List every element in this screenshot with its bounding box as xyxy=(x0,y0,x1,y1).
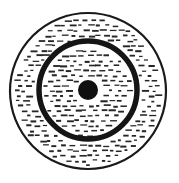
hatch-dash xyxy=(67,100,71,102)
hatch-dash xyxy=(125,141,131,143)
hatch-dash xyxy=(95,64,101,66)
hatch-dash xyxy=(137,124,143,125)
hatch-dash xyxy=(92,30,99,32)
hatch-dash xyxy=(149,115,156,116)
hatch-dash xyxy=(56,120,61,122)
hatch-dash xyxy=(89,105,94,107)
figure-root xyxy=(0,0,179,183)
hatch-dash xyxy=(48,40,54,42)
hatch-dash xyxy=(145,80,150,82)
hatch-dash xyxy=(66,90,73,92)
hatch-dash xyxy=(35,134,40,136)
hatch-dash xyxy=(148,75,152,77)
hatch-dash xyxy=(78,24,81,25)
hatch-dash xyxy=(52,45,55,46)
hatch-dash xyxy=(18,85,22,87)
hatch-dash xyxy=(151,120,155,122)
hatch-dash xyxy=(157,105,161,107)
hatch-dash xyxy=(100,100,107,102)
hatch-dash xyxy=(76,110,82,112)
hatch-dash xyxy=(62,35,69,36)
hatch-dash xyxy=(39,40,45,42)
hatch-dash xyxy=(48,30,53,31)
hatch-dash xyxy=(42,50,47,52)
hatch-dash xyxy=(91,19,96,21)
hatch-dash xyxy=(66,60,69,61)
hatch-dash xyxy=(22,119,28,120)
hatch-dash xyxy=(72,125,76,126)
hatch-dash xyxy=(26,124,31,126)
hatch-dash xyxy=(110,30,117,31)
hatch-dash xyxy=(114,64,120,66)
hatch-dash xyxy=(88,55,94,56)
hatch-dash xyxy=(87,154,92,156)
hatch-dash xyxy=(118,111,124,113)
hatch-dash xyxy=(123,45,130,47)
hatch-dash xyxy=(110,80,115,81)
hatch-dash xyxy=(73,61,76,63)
hatch-dash xyxy=(89,36,95,38)
hatch-dash xyxy=(135,120,140,122)
hatch-dash xyxy=(79,64,82,65)
hatch-dash xyxy=(152,70,158,71)
hatch-dash xyxy=(139,75,142,77)
hatch-dash xyxy=(69,145,75,146)
hatch-dash xyxy=(15,89,20,91)
hatch-dash xyxy=(17,74,23,76)
hatch-dash xyxy=(85,61,90,63)
hatch-dash xyxy=(95,145,101,147)
center-dot xyxy=(78,80,98,100)
hatch-dash xyxy=(56,80,60,82)
hatch-dash xyxy=(57,110,62,112)
hatch-dash xyxy=(151,110,156,111)
hatch-dash xyxy=(43,85,47,87)
hatch-dash xyxy=(93,159,97,160)
hatch-dash xyxy=(61,114,68,116)
hatch-dash xyxy=(53,156,57,158)
hatch-dash xyxy=(26,104,30,105)
hatch-dash xyxy=(142,90,149,92)
hatch-dash xyxy=(88,145,92,147)
hatch-dash xyxy=(127,49,132,51)
hatch-dash xyxy=(101,120,106,121)
hatch-dash xyxy=(109,109,116,111)
hatch-dash xyxy=(74,69,81,70)
hatch-dash xyxy=(62,55,69,57)
hatch-dash xyxy=(50,101,53,102)
hatch-dash xyxy=(103,95,109,97)
hatch-dash xyxy=(67,120,74,122)
hatch-dash xyxy=(140,136,145,138)
hatch-dash xyxy=(16,100,19,101)
hatch-dash xyxy=(102,109,108,111)
hatch-dash xyxy=(147,106,151,108)
hatch-dash xyxy=(43,144,49,145)
hatch-dash xyxy=(80,155,87,157)
hatch-dash xyxy=(70,24,77,26)
hatch-dash xyxy=(138,45,144,46)
hatch-dash xyxy=(139,56,142,57)
hatch-dash xyxy=(110,120,117,121)
hatch-dash xyxy=(28,134,34,136)
hatch-dash xyxy=(140,114,147,116)
hatch-dash xyxy=(52,36,55,37)
hatch-dash xyxy=(106,125,113,127)
hatch-dash xyxy=(32,110,39,112)
hatch-dash xyxy=(73,100,77,101)
hatch-dash xyxy=(95,115,99,116)
hatch-dash xyxy=(127,41,133,42)
hatch-dash xyxy=(69,95,73,97)
hatch-dash xyxy=(23,100,30,102)
hatch-dash xyxy=(35,116,41,118)
hatch-dash xyxy=(49,150,54,152)
hatch-dash xyxy=(53,95,57,97)
hatch-dash xyxy=(114,114,118,116)
hatch-dash xyxy=(102,160,105,162)
hatch-dash xyxy=(43,54,50,56)
hatch-dash xyxy=(70,65,74,66)
hatch-dash xyxy=(111,141,116,143)
hatch-dash xyxy=(110,61,113,63)
hatch-dash xyxy=(118,139,121,141)
hatch-dash xyxy=(28,64,33,66)
hatch-dash xyxy=(135,50,141,52)
hatch-dash xyxy=(84,29,90,31)
